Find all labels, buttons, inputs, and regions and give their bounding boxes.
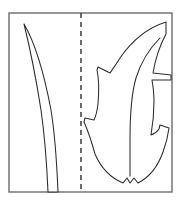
- line-art-figure: [0, 0, 181, 203]
- figure-root: [0, 0, 181, 203]
